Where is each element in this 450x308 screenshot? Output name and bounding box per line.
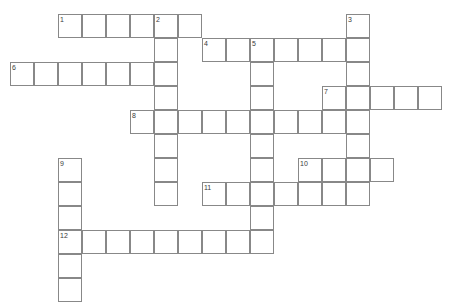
crossword-cell[interactable] bbox=[58, 14, 82, 38]
crossword-cell[interactable] bbox=[130, 230, 154, 254]
crossword-cell[interactable] bbox=[58, 62, 82, 86]
crossword-cell[interactable] bbox=[370, 158, 394, 182]
crossword-cell[interactable] bbox=[58, 230, 82, 254]
crossword-cell[interactable] bbox=[226, 182, 250, 206]
crossword-cell[interactable] bbox=[154, 86, 178, 110]
crossword-cell[interactable] bbox=[154, 230, 178, 254]
crossword-cell[interactable] bbox=[418, 86, 442, 110]
crossword-cell[interactable] bbox=[202, 110, 226, 134]
crossword-cell[interactable] bbox=[274, 182, 298, 206]
crossword-cell[interactable] bbox=[58, 182, 82, 206]
crossword-cell[interactable] bbox=[274, 110, 298, 134]
crossword-cell[interactable] bbox=[346, 38, 370, 62]
crossword-cell[interactable] bbox=[106, 62, 130, 86]
crossword-cell[interactable] bbox=[346, 86, 370, 110]
crossword-cell[interactable] bbox=[298, 38, 322, 62]
crossword-cell[interactable] bbox=[34, 62, 58, 86]
crossword-cell[interactable] bbox=[202, 182, 226, 206]
crossword-cell[interactable] bbox=[154, 110, 178, 134]
crossword-cell[interactable] bbox=[250, 62, 274, 86]
crossword-cell[interactable] bbox=[322, 158, 346, 182]
crossword-cell[interactable] bbox=[250, 230, 274, 254]
crossword-cell[interactable] bbox=[250, 110, 274, 134]
crossword-cell[interactable] bbox=[154, 62, 178, 86]
crossword-cell[interactable] bbox=[370, 86, 394, 110]
crossword-cell[interactable] bbox=[178, 110, 202, 134]
crossword-cell[interactable] bbox=[226, 230, 250, 254]
crossword-cell[interactable] bbox=[58, 278, 82, 302]
crossword-cell[interactable] bbox=[130, 110, 154, 134]
crossword-cell[interactable] bbox=[250, 86, 274, 110]
crossword-cell[interactable] bbox=[250, 158, 274, 182]
crossword-cell[interactable] bbox=[130, 14, 154, 38]
crossword-cell[interactable] bbox=[346, 62, 370, 86]
crossword-cell[interactable] bbox=[322, 86, 346, 110]
crossword-cell[interactable] bbox=[10, 62, 34, 86]
crossword-cell[interactable] bbox=[322, 182, 346, 206]
crossword-cell[interactable] bbox=[82, 14, 106, 38]
crossword-cell[interactable] bbox=[346, 110, 370, 134]
crossword-cell[interactable] bbox=[202, 38, 226, 62]
crossword-cell[interactable] bbox=[154, 14, 178, 38]
crossword-cell[interactable] bbox=[298, 158, 322, 182]
crossword-cell[interactable] bbox=[346, 14, 370, 38]
crossword-cell[interactable] bbox=[154, 38, 178, 62]
crossword-cell[interactable] bbox=[298, 110, 322, 134]
crossword-cell[interactable] bbox=[322, 110, 346, 134]
crossword-cell[interactable] bbox=[226, 38, 250, 62]
crossword-cell[interactable] bbox=[106, 230, 130, 254]
crossword-cell[interactable] bbox=[58, 206, 82, 230]
crossword-cell[interactable] bbox=[250, 38, 274, 62]
crossword-cell[interactable] bbox=[130, 62, 154, 86]
crossword-puzzle: 123456789101112 bbox=[0, 0, 450, 308]
crossword-grid[interactable]: 123456789101112 bbox=[0, 0, 450, 308]
crossword-cell[interactable] bbox=[154, 158, 178, 182]
crossword-cell[interactable] bbox=[106, 14, 130, 38]
crossword-cell[interactable] bbox=[298, 182, 322, 206]
crossword-cell[interactable] bbox=[250, 206, 274, 230]
crossword-cell[interactable] bbox=[346, 158, 370, 182]
crossword-cell[interactable] bbox=[82, 62, 106, 86]
crossword-cell[interactable] bbox=[394, 86, 418, 110]
crossword-cell[interactable] bbox=[178, 230, 202, 254]
crossword-cell[interactable] bbox=[274, 38, 298, 62]
crossword-cell[interactable] bbox=[178, 14, 202, 38]
crossword-cell[interactable] bbox=[226, 110, 250, 134]
crossword-cell[interactable] bbox=[58, 158, 82, 182]
crossword-cell[interactable] bbox=[346, 134, 370, 158]
crossword-cell[interactable] bbox=[202, 230, 226, 254]
crossword-cell[interactable] bbox=[154, 134, 178, 158]
crossword-cell[interactable] bbox=[250, 134, 274, 158]
crossword-cell[interactable] bbox=[154, 182, 178, 206]
crossword-cell[interactable] bbox=[58, 254, 82, 278]
crossword-cell[interactable] bbox=[322, 38, 346, 62]
crossword-cell[interactable] bbox=[346, 182, 370, 206]
crossword-cell[interactable] bbox=[82, 230, 106, 254]
crossword-cell[interactable] bbox=[250, 182, 274, 206]
